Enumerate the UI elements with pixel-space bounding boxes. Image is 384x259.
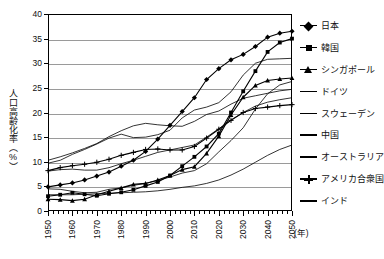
legend-label: 日本 [321,20,339,32]
data-point [278,41,282,45]
x-axis-tick-minor [141,211,142,214]
legend-marker-icon [300,129,317,141]
x-axis-tick-major [170,211,171,216]
legend-label: 韓国 [321,42,339,54]
legend-marker-icon [300,86,317,98]
x-axis-tick-minor [107,211,108,214]
x-axis-tick-minor [136,211,137,214]
legend-marker-square-icon [306,45,312,51]
legend: 日本韓国シンガポールドイツスウェーデン中国オーストラリアアメリカ合衆国インド [300,14,368,211]
legend-item-2[interactable]: シンガポール [300,64,375,76]
x-axis-tick-minor [204,211,205,214]
y-axis-tick-label: 20 [16,108,42,118]
legend-marker-icon [300,173,317,185]
x-axis-tick-minor [155,211,156,214]
x-axis-tick-minor [68,211,69,214]
data-point [131,150,136,155]
y-axis-tick-label: 0 [16,206,42,216]
x-axis-tick-minor [58,211,59,214]
legend-label: シンガポール [321,64,375,76]
x-axis-tick-minor [77,211,78,214]
x-axis-tick-minor [190,211,191,214]
x-axis-tick-minor [53,211,54,214]
legend-marker-icon [300,20,317,32]
x-axis-tick-minor [214,211,215,214]
data-point [193,155,197,159]
legend-line [300,156,317,157]
x-axis-tick-major [268,211,269,216]
x-axis-tick-minor [224,211,225,214]
x-axis-tick-minor [116,211,117,214]
x-axis-tick-label: 2040 [263,220,273,239]
data-point [254,69,258,73]
legend-item-7[interactable]: アメリカ合衆国 [300,173,384,185]
y-axis-tick-label: 35 [16,34,42,44]
x-axis-tick-label: 2030 [238,220,248,239]
data-point [106,169,111,174]
x-axis-tick-major [243,211,244,216]
data-point [290,37,294,41]
data-point [289,29,294,34]
legend-label: スウェーデン [321,108,375,120]
legend-item-8[interactable]: インド [300,195,348,207]
x-axis-tick-major [219,211,220,216]
y-axis-tick-label: 15 [16,132,42,142]
x-axis-tick-major [146,211,147,216]
data-point [265,104,270,109]
legend-item-5[interactable]: 中国 [300,129,339,141]
legend-marker-triangle-icon [304,66,312,73]
legend-item-6[interactable]: オーストラリア [300,151,384,163]
x-axis-unit-label: (年) [294,226,309,238]
data-point [70,163,75,168]
x-axis-tick-minor [263,211,264,214]
legend-marker-icon [300,108,317,120]
series-2 [46,76,295,203]
y-axis-tick-label: 10 [16,157,42,167]
x-axis-tick-label: 1980 [116,220,126,239]
data-point [132,188,136,192]
legend-label: 中国 [321,129,339,141]
data-point [45,168,50,173]
x-axis-tick-minor [87,211,88,214]
x-axis-tick-minor [233,211,234,214]
x-axis-tick-label: 1970 [92,220,102,239]
x-axis-tick-minor [165,211,166,214]
legend-item-3[interactable]: ドイツ [300,86,348,98]
legend-item-1[interactable]: 韓国 [300,42,339,54]
y-axis-tick-label: 30 [16,58,42,68]
legend-item-4[interactable]: スウェーデン [300,108,375,120]
data-point [167,147,172,152]
data-point [82,177,87,182]
y-axis-tick-label: 5 [16,181,42,191]
x-axis-tick-label: 1960 [67,220,77,239]
legend-label: インド [321,195,348,207]
x-axis-tick-minor [229,211,230,214]
x-axis-tick-minor [185,211,186,214]
x-axis-tick-label: 2010 [189,220,199,239]
x-axis-tick-label: 1950 [43,220,53,239]
data-point [94,160,99,165]
legend-label: オーストラリア [321,151,384,163]
x-axis-tick-major [121,211,122,216]
x-axis-tick-minor [277,211,278,214]
data-point [119,190,123,194]
legend-label: アメリカ合衆国 [321,173,384,185]
x-axis-tick-minor [175,211,176,214]
legend-line [300,200,317,201]
legend-item-0[interactable]: 日本 [300,20,339,32]
legend-marker-icon [300,42,317,54]
data-point [94,173,99,178]
x-axis-tick-minor [248,211,249,214]
legend-line [300,91,317,92]
data-point [58,182,63,187]
x-axis-tick-minor [160,211,161,214]
series-line [48,105,292,171]
data-point [70,180,75,185]
data-point [289,102,294,107]
x-axis-tick-minor [102,211,103,214]
x-axis-tick-minor [111,211,112,214]
x-axis-tick-major [194,211,195,216]
x-axis-tick-major [72,211,73,216]
x-axis-tick-minor [131,211,132,214]
